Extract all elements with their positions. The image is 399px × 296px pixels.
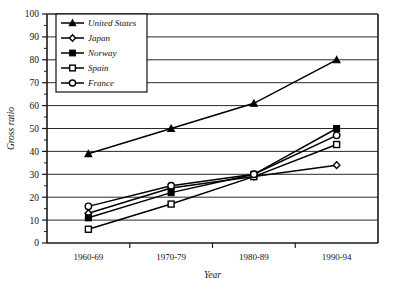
marker-open-circle [168,183,174,189]
marker-filled-square [85,215,91,221]
y-tick-label-100: 100 [25,9,40,19]
y-tick-label-0: 0 [34,238,39,248]
line-chart: 01020304050607080901001960-691970-791980… [0,0,399,296]
marker-open-circle [69,80,75,86]
y-tick-label-20: 20 [30,193,40,203]
marker-filled-square [70,50,76,56]
marker-open-diamond [333,162,339,169]
marker-open-circle [251,171,257,177]
y-tick-label-80: 80 [30,55,40,65]
marker-open-square [70,65,76,71]
y-tick-label-70: 70 [30,78,40,88]
legend-label-1: Japan [88,33,110,43]
x-tick-label-3: 1990-94 [322,252,352,262]
y-axis-title: Gross ratio [6,107,16,150]
marker-open-square [85,226,91,232]
y-tick-label-60: 60 [30,101,40,111]
marker-open-circle [333,132,339,138]
marker-open-circle [85,203,91,209]
legend-label-2: Norway [87,48,117,58]
series-line-spain [88,145,336,230]
marker-filled-square [334,126,340,132]
x-tick-label-1: 1970-79 [156,252,186,262]
y-tick-label-30: 30 [30,170,40,180]
chart-canvas: 01020304050607080901001960-691970-791980… [0,0,399,296]
y-tick-label-90: 90 [30,32,40,42]
x-tick-label-2: 1980-89 [239,252,269,262]
marker-filled-square [168,190,174,196]
x-axis-title: Year [204,270,221,280]
y-tick-label-10: 10 [30,216,40,226]
marker-open-square [168,201,174,207]
marker-open-square [334,142,340,148]
legend: United StatesJapanNorwaySpainFrance [56,14,147,92]
x-tick-label-0: 1960-69 [73,252,103,262]
y-tick-label-40: 40 [30,147,40,157]
legend-label-3: Spain [88,63,109,73]
marker-filled-triangle [250,100,257,106]
legend-label-4: France [87,78,114,88]
y-tick-label-50: 50 [30,124,40,134]
legend-label-0: United States [88,18,137,28]
